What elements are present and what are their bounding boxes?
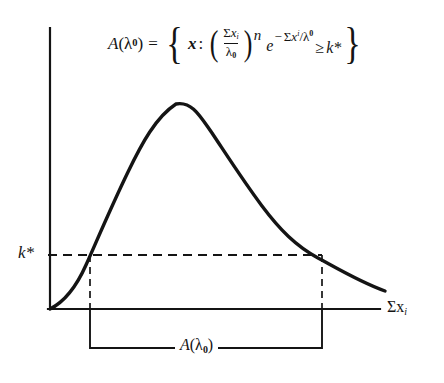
formula-num-x-subscript: i: [237, 32, 239, 41]
formula-fraction: Σxi λ0: [221, 26, 241, 61]
formula-fraction-denominator: λ0: [224, 43, 238, 61]
formula-lhs-A: A: [108, 35, 118, 52]
bracket-label-lambda: λ: [195, 336, 203, 353]
formula-lhs: A(λ0): [108, 35, 143, 52]
acceptance-bracket-label: A(λ0): [175, 337, 218, 355]
x-axis-label-subscript: i: [404, 306, 407, 317]
bracket-label-paren-close: ): [208, 336, 213, 353]
formula-brace-open: {: [166, 30, 182, 57]
formula-colon: :: [198, 35, 203, 52]
formula-paren-close: ): [243, 33, 252, 55]
bracket-label-A: A: [180, 336, 190, 353]
formula-exponent-n: n: [254, 28, 262, 43]
x-axis-label: Σxi: [387, 299, 407, 317]
formula-exp-minus: −: [274, 30, 281, 43]
formula-inequality-group: ≥ k*: [315, 40, 341, 56]
formula-num-sigma: Σ: [223, 25, 231, 40]
formula-k-star: k*: [326, 40, 341, 56]
formula-exp-lambda-subscript: 0: [309, 30, 313, 38]
formula-lhs-lambda: λ: [124, 35, 132, 52]
formula-base-e: e: [266, 38, 273, 54]
density-curve: [50, 104, 385, 309]
formula-exponent-expression: −Σxi/λ0: [274, 30, 313, 43]
formula-paren-open: (: [210, 33, 219, 55]
formula-equals: =: [148, 35, 158, 52]
formula-expression: A(λ0) = { x : ( Σxi λ0 ) n e −Σxi/λ0 ≥ k…: [108, 26, 364, 61]
formula-brace-close: }: [345, 30, 361, 57]
formula-lhs-paren-close: ): [138, 35, 144, 52]
formula-den-lambda-subscript: 0: [232, 51, 236, 60]
x-axis-label-sigma-x: Σx: [387, 298, 404, 315]
figure-container: A(λ0) = { x : ( Σxi λ0 ) n e −Σxi/λ0 ≥ k…: [0, 0, 444, 383]
formula-fraction-numerator: Σxi: [221, 26, 241, 43]
formula-geq-sign: ≥: [315, 40, 324, 56]
y-axis-threshold-label: k*: [18, 244, 34, 261]
formula-set-variable: x: [188, 35, 197, 52]
formula-set-var-x: x: [188, 35, 197, 52]
y-axis-threshold-text: k*: [18, 243, 34, 262]
